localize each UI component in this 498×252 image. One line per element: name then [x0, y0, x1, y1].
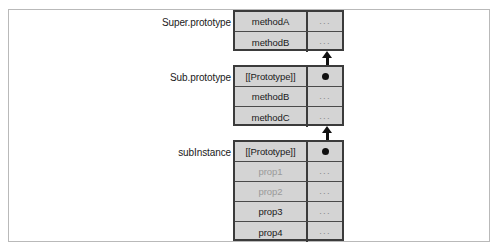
ellipsis-glyph: ... [319, 36, 331, 46]
object-label-super-prototype: Super.prototype [159, 17, 231, 28]
property-value: ... [308, 87, 342, 106]
property-value [308, 67, 342, 86]
property-value: ... [308, 12, 342, 31]
property-value: ... [308, 222, 342, 242]
property-value: ... [308, 202, 342, 221]
reference-dot-icon [322, 73, 329, 80]
table-row: methodB ... [235, 87, 342, 107]
property-key: [[Prototype]] [235, 67, 308, 86]
property-key: methodC [235, 107, 308, 127]
object-box-super-prototype: methodA ... methodB ... [233, 10, 344, 51]
object-label-sub-instance: subInstance [159, 147, 231, 158]
prototype-chain-figure: Super.prototype methodA ... methodB ... … [0, 0, 498, 252]
object-label-sub-prototype: Sub.prototype [159, 72, 231, 83]
reference-dot-icon [322, 148, 329, 155]
table-row: prop1 ... [235, 162, 342, 182]
property-key: methodA [235, 12, 308, 31]
property-key: prop2 [235, 182, 308, 201]
property-value [308, 142, 342, 161]
property-key: [[Prototype]] [235, 142, 308, 161]
table-row: methodA ... [235, 12, 342, 32]
table-row: prop3 ... [235, 202, 342, 222]
property-value: ... [308, 182, 342, 201]
property-key: methodB [235, 32, 308, 52]
ellipsis-glyph: ... [319, 226, 331, 236]
object-box-sub-prototype: [[Prototype]] methodB ... methodC ... [233, 65, 344, 126]
property-value: ... [308, 162, 342, 181]
table-row: prop4 ... [235, 222, 342, 242]
ellipsis-glyph: ... [319, 91, 331, 101]
table-row: [[Prototype]] [235, 67, 342, 87]
property-key: prop1 [235, 162, 308, 181]
table-row: [[Prototype]] [235, 142, 342, 162]
table-row: prop2 ... [235, 182, 342, 202]
ellipsis-glyph: ... [319, 16, 331, 26]
table-row: methodB ... [235, 32, 342, 52]
ellipsis-glyph: ... [319, 166, 331, 176]
object-box-sub-instance: [[Prototype]] prop1 ... prop2 ... prop3 [233, 140, 344, 241]
property-value: ... [308, 107, 342, 127]
property-value: ... [308, 32, 342, 52]
table-row: methodC ... [235, 107, 342, 127]
property-key: prop4 [235, 222, 308, 242]
property-key: methodB [235, 87, 308, 106]
figure-frame: Super.prototype methodA ... methodB ... … [8, 9, 490, 242]
ellipsis-glyph: ... [319, 186, 331, 196]
ellipsis-glyph: ... [319, 111, 331, 121]
property-key: prop3 [235, 202, 308, 221]
ellipsis-glyph: ... [319, 206, 331, 216]
